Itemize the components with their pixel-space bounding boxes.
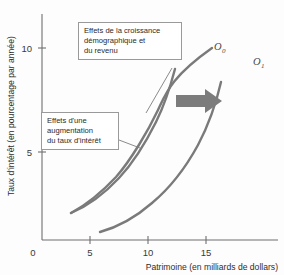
y-tick-label-10: 10 [21, 43, 32, 54]
x-tick-label-15: 15 [201, 247, 212, 258]
y-axis-title: Taux d'intérêt (en pourcentage par année… [6, 36, 16, 196]
curve-label-o0: O [214, 41, 222, 52]
curve-label-o1: O [253, 56, 261, 67]
shift-arrow-icon [176, 89, 222, 113]
x-axis-title: Patrimoine (en milliards de dollars) [146, 262, 278, 272]
x-tick-label-10: 10 [143, 247, 154, 258]
callout-interest-rate: Effets d'une augmentation du taux d'inté… [41, 112, 119, 150]
callout-growth-income: Effets de la croissance démographique et… [78, 22, 182, 60]
curve-label-o1-subscript: 1 [261, 62, 265, 70]
x-tick-label-5: 5 [87, 247, 92, 258]
y-tick-label-5: 5 [27, 147, 32, 158]
curve-label-o0-subscript: 0 [222, 47, 226, 55]
economics-supply-shift-figure: 10 5 0 5 10 15 Patrimoine (en milliards … [0, 0, 284, 275]
leader-line-interest [119, 140, 140, 148]
x-tick-label-0: 0 [30, 247, 35, 258]
